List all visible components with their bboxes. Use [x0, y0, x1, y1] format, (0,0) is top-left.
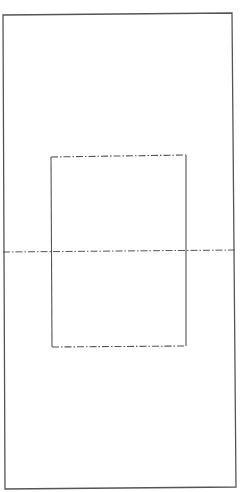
inner-rect-bottom-edge-dashdot	[52, 346, 186, 347]
line-drawing	[0, 0, 245, 492]
inner-rect-left-side	[51, 157, 52, 347]
horizontal-centerline-dashdot	[3, 250, 236, 252]
inner-rect-top-edge-dashdot	[51, 155, 186, 157]
figure-canvas	[0, 0, 245, 492]
